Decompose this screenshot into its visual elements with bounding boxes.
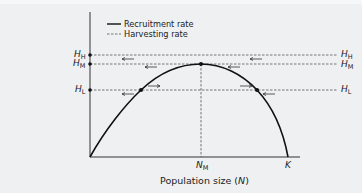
right-label-low: HL [341,85,351,96]
x-tick-nm: NM [196,161,208,172]
y-axis-dot-high [88,53,92,57]
arrow-left-icon [145,66,157,69]
y-label-low: HL [75,85,85,96]
right-label-medium: HM [341,60,353,71]
arrow-left-icon [228,66,240,69]
arrow-left-icon [250,58,262,61]
y-label-medium: HM [73,59,85,70]
arrow-left-icon [263,93,275,96]
x-axis-label: Population size (N) [160,175,249,186]
equilibrium-dot-max [199,62,203,66]
equilibrium-dot-low-left [139,88,143,92]
arrow-right-icon [240,85,252,88]
legend-recruitment: Recruitment rate [124,20,194,28]
recruitment-curve [90,64,288,157]
x-tick-k: K [285,161,291,170]
y-axis-dot-medium [88,62,92,66]
y-axis-dot-low [88,88,92,92]
arrow-left-icon [122,93,134,96]
equilibrium-dot-low-right [255,88,259,92]
arrow-right-icon [148,85,160,88]
arrow-left-icon [122,58,134,61]
legend-harvesting: Harvesting rate [124,30,188,38]
